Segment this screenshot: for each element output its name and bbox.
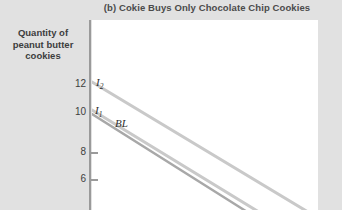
y-tick-label-12: 12 [62,79,86,89]
y-axis-title: Quantity of peanut butter cookies [0,27,86,62]
y-axis-title-line-3: cookies [0,50,86,62]
y-tick-mark-8 [91,152,98,154]
curve-label-i2: I2 [96,76,103,91]
y-tick-mark-6 [91,179,98,181]
y-axis-spine [89,20,91,210]
curve-label-i2-subscript: 2 [100,82,104,91]
y-tick-label-6: 6 [62,174,86,184]
curve-i2 [92,82,318,210]
curves-svg [92,20,318,210]
plot-area [92,20,318,210]
y-tick-label-8: 8 [62,147,86,157]
panel-title: (b) Cokie Buys Only Chocolate Chip Cooki… [92,1,322,14]
curve-label-i1-subscript: 1 [99,110,103,119]
y-axis-title-line-1: Quantity of [0,27,86,39]
curve-label-bl: BL [115,117,128,129]
y-axis-title-line-2: peanut butter [0,39,86,51]
y-tick-label-10: 10 [62,107,86,117]
curve-label-i1: I1 [95,104,102,119]
